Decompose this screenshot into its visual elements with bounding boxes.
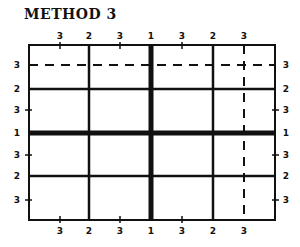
bottom-label-2: 2	[210, 226, 216, 236]
bottom-label-3: 3	[57, 226, 63, 236]
left-label-3: 3	[14, 195, 20, 205]
right-label-2: 2	[283, 171, 289, 181]
top-label-1: 1	[148, 31, 154, 41]
top-label-3: 3	[57, 31, 63, 41]
top-label-2: 2	[86, 31, 92, 41]
right-label-3: 3	[283, 105, 289, 115]
right-label-1: 1	[283, 128, 289, 138]
left-label-2: 2	[14, 171, 20, 181]
right-label-2: 2	[283, 84, 289, 94]
grid-diagram: 2211223333333333221122333333	[0, 0, 300, 247]
left-label-1: 1	[14, 128, 20, 138]
top-label-3: 3	[241, 31, 247, 41]
bottom-label-3: 3	[179, 226, 185, 236]
bottom-label-1: 1	[148, 226, 154, 236]
left-label-2: 2	[14, 84, 20, 94]
bottom-label-3: 3	[241, 226, 247, 236]
right-label-3: 3	[283, 195, 289, 205]
left-label-3: 3	[14, 60, 20, 70]
right-label-3: 3	[283, 150, 289, 160]
bottom-label-2: 2	[86, 226, 92, 236]
top-label-3: 3	[117, 31, 123, 41]
left-label-3: 3	[14, 150, 20, 160]
bottom-label-3: 3	[117, 226, 123, 236]
top-label-2: 2	[210, 31, 216, 41]
top-label-3: 3	[179, 31, 185, 41]
left-label-3: 3	[14, 105, 20, 115]
right-label-3: 3	[283, 60, 289, 70]
